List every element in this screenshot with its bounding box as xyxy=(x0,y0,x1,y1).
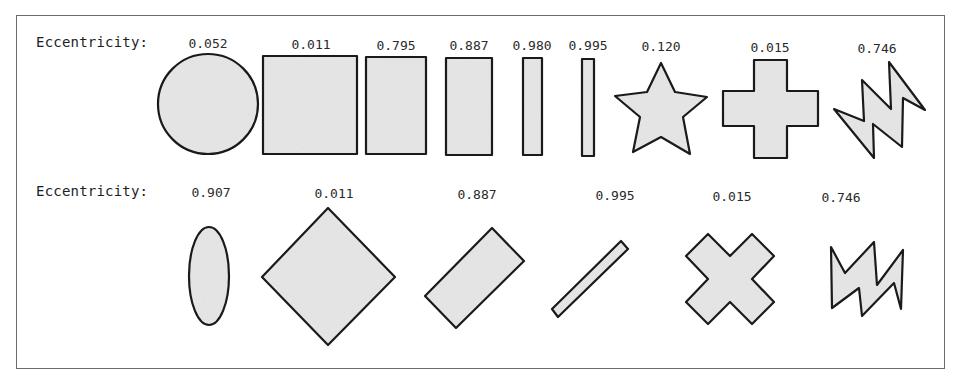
very-thin-rectangle-shape xyxy=(582,59,594,156)
rectangle-shape xyxy=(366,57,426,154)
ellipse-shape xyxy=(189,227,229,325)
zigzag-shape xyxy=(834,62,925,158)
thin-rectangle-shape xyxy=(523,58,542,155)
circle-shape xyxy=(158,54,258,154)
rotated-thin-rectangle-shape xyxy=(552,241,628,317)
shapes-canvas xyxy=(0,0,961,374)
cross-shape xyxy=(723,60,818,158)
row-1-shapes xyxy=(158,54,925,158)
rectangle-narrow-shape xyxy=(446,58,492,155)
square-shape xyxy=(263,56,357,154)
rotated-cross-shape xyxy=(686,234,774,324)
rotated-zigzag-shape xyxy=(831,242,903,316)
star-shape xyxy=(615,63,707,154)
row-2-shapes xyxy=(189,208,903,345)
rotated-rectangle-shape xyxy=(425,228,524,328)
rotated-square-shape xyxy=(262,208,395,345)
